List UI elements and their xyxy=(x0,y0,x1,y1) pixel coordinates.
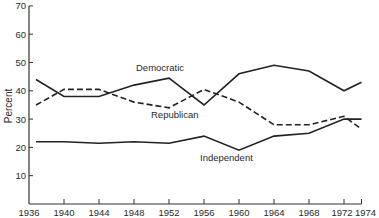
y-tick-label: 50 xyxy=(15,57,26,68)
series-label-independent: Independent xyxy=(200,152,253,163)
y-tick-label: 30 xyxy=(15,114,26,125)
x-tick-label: 1948 xyxy=(123,207,144,218)
y-axis-title: Percent xyxy=(3,89,14,124)
line-chart: 1020304050607019361940194419481952195619… xyxy=(0,0,379,218)
y-tick-label: 20 xyxy=(15,142,26,153)
x-tick-label: 1940 xyxy=(53,207,74,218)
series-label-democratic: Democratic xyxy=(136,62,184,73)
x-tick-label: 1936 xyxy=(18,207,39,218)
x-tick-label: 1944 xyxy=(88,207,109,218)
series-label-republican: Republican xyxy=(151,109,199,120)
x-tick-label: 1972 xyxy=(331,207,352,218)
series-line-democratic xyxy=(36,65,362,105)
series-lines xyxy=(36,65,362,150)
x-tick-label: 1968 xyxy=(298,207,319,218)
y-tick-label: 70 xyxy=(15,0,26,11)
x-tick-label: 1956 xyxy=(193,207,214,218)
series-line-republican xyxy=(36,89,362,129)
x-tick-label: 1952 xyxy=(158,207,179,218)
x-tick-label: 1964 xyxy=(263,207,284,218)
y-tick-label: 40 xyxy=(15,85,26,96)
x-tick-label: 1974 xyxy=(355,207,376,218)
y-tick-label: 60 xyxy=(15,29,26,40)
y-tick-label: 10 xyxy=(15,170,26,181)
x-tick-label: 1960 xyxy=(228,207,249,218)
